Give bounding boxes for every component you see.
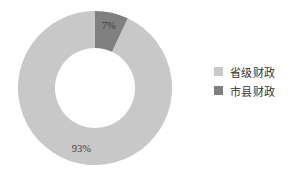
legend-item-provincial-finance[interactable]: 省级财政 <box>214 63 299 80</box>
legend-item-city-county-finance[interactable]: 市县财政 <box>214 82 299 99</box>
donut-chart-plot-area: 93% 7% <box>0 0 200 175</box>
donut-chart-svg: 93% 7% <box>0 0 200 175</box>
chart-legend: 省级财政 市县财政 <box>214 63 299 101</box>
legend-swatch-icon <box>214 67 223 76</box>
pie-slice-label-93: 93% <box>72 143 92 154</box>
legend-item-label: 市县财政 <box>230 83 276 99</box>
legend-swatch-icon <box>214 86 223 95</box>
pie-slice-label-7: 7% <box>102 20 116 31</box>
donut-chart-figure: 93% 7% 省级财政 市县财政 <box>0 0 299 175</box>
legend-item-label: 省级财政 <box>230 64 276 80</box>
